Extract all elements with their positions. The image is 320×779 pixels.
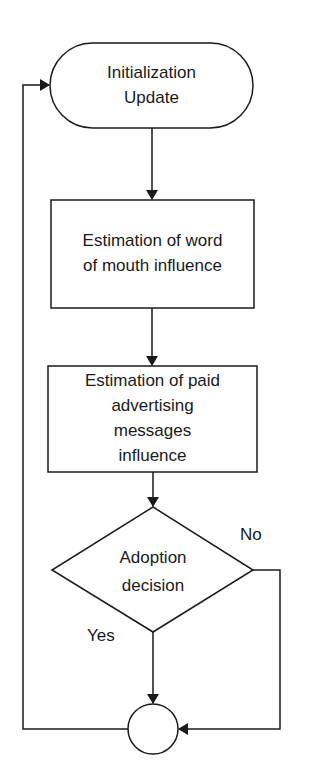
edge-label-no: No: [240, 525, 262, 545]
node-label-word-of-mouth: Estimation of word of mouth influence: [51, 228, 254, 278]
edge-label-yes: Yes: [87, 626, 115, 646]
label-line: Initialization: [50, 60, 253, 85]
label-line: of mouth influence: [51, 253, 254, 278]
connector-circle: [128, 704, 178, 754]
label-line: Estimation of paid: [48, 368, 257, 393]
node-label-init: Initialization Update: [50, 60, 253, 110]
label-line: decision: [82, 572, 224, 600]
label-line: influence: [48, 443, 257, 468]
node-label-paid-advertising: Estimation of paid advertising messages …: [48, 368, 257, 468]
label-line: Adoption: [82, 544, 224, 572]
label-line: advertising: [48, 393, 257, 418]
label-line: Update: [50, 85, 253, 110]
label-line: Estimation of word: [51, 228, 254, 253]
label-line: messages: [48, 418, 257, 443]
node-label-adoption-decision: Adoption decision: [82, 544, 224, 600]
